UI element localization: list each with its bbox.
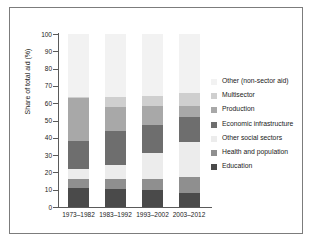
bar-segment [142,34,163,96]
legend-item: Education [211,161,311,175]
y-axis-tick [53,103,58,104]
legend-item-label: Multisector [222,90,255,100]
legend-item: Economic infrastructure [211,119,311,133]
y-axis-tick-label: 70 [32,82,52,89]
y-axis-tick-label: 10 [32,186,52,193]
y-axis-tick [53,138,58,139]
bar-segment [142,106,163,125]
bar-segment [68,169,89,179]
y-axis-tick-label: 80 [32,65,52,72]
y-axis-tick [53,190,58,191]
y-axis-tick [53,69,58,70]
legend-swatch-icon [211,122,217,128]
stacked-bar [142,34,163,207]
legend-item: Other social sectors [211,133,311,147]
legend-swatch-icon [211,107,217,113]
legend-item-label: Other (non-sector aid) [222,76,289,86]
y-axis-tick-label: 50 [32,117,52,124]
bar-segment [142,179,163,189]
y-axis-title: Share of total aid (%) [24,17,31,147]
bar-segment [179,177,200,193]
y-axis-tick [53,86,58,87]
bar-segment [142,190,163,207]
y-axis-tick [53,51,58,52]
bar-segment [68,141,89,169]
bar-segment [68,97,89,98]
legend-item: Health and population [211,147,311,161]
chart-frame: 0102030405060708090100 Share of total ai… [9,7,303,234]
bar-segment [179,93,200,106]
bar-segment [105,131,126,165]
stacked-bar [105,34,126,207]
bar-segment [142,96,163,106]
bar-segment [68,98,89,141]
y-axis-tick [53,34,58,35]
bar-segment [68,188,89,207]
bar-segment [179,142,200,177]
y-axis-tick [53,155,58,156]
legend-item: Other (non-sector aid) [211,76,311,90]
y-axis-tick [53,172,58,173]
legend-item-label: Economic infrastructure [222,119,293,129]
bar-segment [68,179,89,188]
bar-segment [179,117,200,142]
legend-item-label: Health and population [222,147,288,157]
legend-item-label: Other social sectors [222,133,282,143]
y-axis-tick-label: 20 [32,169,52,176]
y-axis-tick-label: 40 [32,134,52,141]
x-axis-tick-label: 2003–2012 [159,211,219,218]
bar-segment [105,179,126,189]
y-axis-tick-label: 90 [32,48,52,55]
legend-swatch-icon [211,136,217,142]
legend-swatch-icon [211,150,217,156]
legend-swatch-icon [211,164,217,170]
bar-segment [179,34,200,93]
y-axis-tick-label: 100 [32,31,52,38]
legend-swatch-icon [211,79,217,85]
y-axis-tick [53,207,58,208]
bar-segment [105,107,126,131]
legend-item: Production [211,104,311,118]
bar-segment [142,153,163,179]
legend-item-label: Production [222,104,255,114]
bar-segment [105,165,126,180]
legend-swatch-icon [211,93,217,99]
y-axis-title-wrap: Share of total aid (%) [10,8,11,9]
y-axis-tick-label: 60 [32,100,52,107]
stacked-bar [68,34,89,207]
y-axis-line [58,33,59,208]
bar-segment [142,125,163,154]
x-axis-line [58,207,212,208]
y-axis-tick [53,121,58,122]
bar-segment [68,34,89,97]
legend-item-label: Education [222,161,252,171]
stacked-bar [179,34,200,207]
bar-segment [179,193,200,207]
bar-segment [105,97,126,107]
bar-segment [105,34,126,97]
legend-item: Multisector [211,90,311,104]
bar-segment [105,189,126,207]
y-axis-tick-label: 30 [32,152,52,159]
chart-figure: 0102030405060708090100 Share of total ai… [0,0,313,243]
y-axis-tick-label: 0 [32,204,52,211]
bar-segment [179,106,200,117]
chart-legend: Other (non-sector aid)MultisectorProduct… [211,76,311,175]
